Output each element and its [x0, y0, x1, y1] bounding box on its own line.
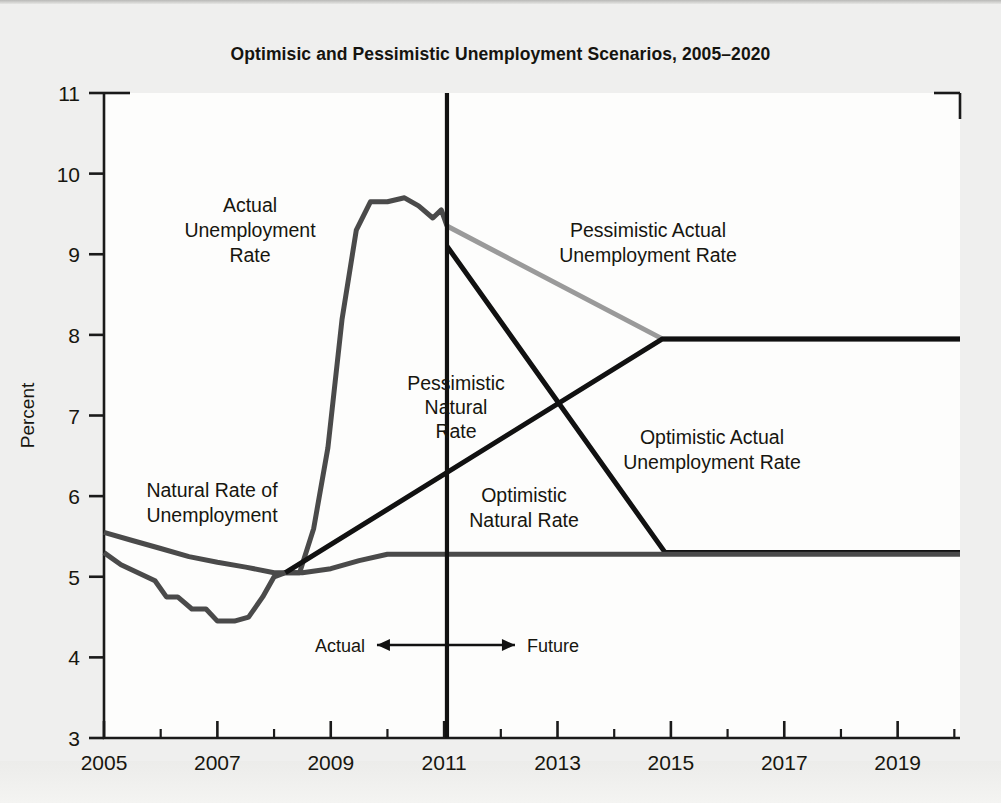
- y-axis-tick-label: 3: [68, 727, 80, 750]
- y-axis-tick-label: 5: [68, 566, 80, 589]
- divider-label-actual: Actual: [315, 636, 365, 656]
- y-axis-tick-label: 11: [58, 82, 80, 105]
- divider-label-future: Future: [527, 636, 579, 656]
- y-axis-tick-label: 4: [68, 646, 80, 669]
- y-axis-tick-label: 10: [57, 163, 80, 186]
- unemployment-line-chart: 1110987654320052007200920112013201520172…: [0, 0, 1001, 803]
- figure-page: Optimisic and Pessimistic Unemployment S…: [0, 0, 1001, 803]
- y-axis-tick-label: 9: [68, 243, 80, 266]
- x-axis-tick-label: 2017: [761, 751, 808, 774]
- y-axis-tick-label: 7: [68, 405, 80, 428]
- x-axis-tick-label: 2015: [648, 751, 695, 774]
- x-axis-tick-label: 2009: [307, 751, 354, 774]
- chart-container: 1110987654320052007200920112013201520172…: [0, 0, 1001, 803]
- x-axis-tick-label: 2007: [194, 751, 241, 774]
- y-axis-tick-label: 8: [68, 324, 80, 347]
- y-axis-tick-label: 6: [68, 485, 80, 508]
- x-axis-tick-label: 2011: [422, 751, 467, 774]
- x-axis-tick-label: 2013: [534, 751, 581, 774]
- x-axis-tick-label: 2005: [81, 751, 128, 774]
- x-axis-tick-label: 2019: [874, 751, 921, 774]
- y-axis-title: Percent: [17, 382, 38, 448]
